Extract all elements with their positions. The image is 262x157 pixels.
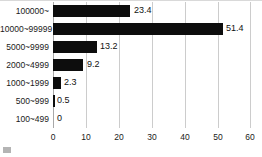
bar <box>53 95 55 107</box>
category-label: 100~499 <box>0 110 49 128</box>
bar <box>53 59 83 71</box>
bar-row: 51.4 <box>53 20 251 38</box>
bar-value-label: 9.2 <box>87 58 100 71</box>
bar-row: 0.5 <box>53 92 251 110</box>
category-label: 5000~9999 <box>0 38 49 56</box>
bar-row: 23.4 <box>53 2 251 20</box>
bar-value-label: 13.2 <box>100 40 118 53</box>
bar-series: 23.4 51.4 13.2 9.2 2.3 0.5 <box>53 2 251 128</box>
category-label: 100000~ <box>0 2 49 20</box>
x-tick-label: 40 <box>170 130 200 144</box>
x-tick-label: 0 <box>38 130 68 144</box>
category-label: 1000~1999 <box>0 74 49 92</box>
bar <box>53 23 223 35</box>
bar <box>53 5 130 17</box>
category-label: 2000~4999 <box>0 56 49 74</box>
bar-value-label: 51.4 <box>226 22 244 35</box>
bar-row: 2.3 <box>53 74 251 92</box>
bar-value-label: 2.3 <box>64 76 77 89</box>
bar-row: 0 <box>53 110 251 128</box>
x-tick-label: 50 <box>203 130 233 144</box>
bar-row: 9.2 <box>53 56 251 74</box>
plot-area: 23.4 51.4 13.2 9.2 2.3 0.5 <box>53 2 251 128</box>
bar <box>53 41 97 53</box>
value-axis-labels: 0 10 20 30 40 50 60 <box>53 130 251 146</box>
page-artifact-glyph <box>3 147 11 153</box>
top-divider <box>0 0 262 1</box>
category-axis-labels: 100000~ 10000~99999 5000~9999 2000~4999 … <box>0 2 49 128</box>
bar-value-label: 23.4 <box>134 4 152 17</box>
bar-value-label: 0 <box>57 112 62 125</box>
bar-row: 13.2 <box>53 38 251 56</box>
x-tick-label: 10 <box>71 130 101 144</box>
bar-value-label: 0.5 <box>57 94 70 107</box>
category-label: 500~999 <box>0 92 49 110</box>
x-tick-label: 20 <box>104 130 134 144</box>
category-label: 10000~99999 <box>0 20 49 38</box>
x-tick-label: 60 <box>235 130 262 144</box>
bar <box>53 77 61 89</box>
bar-chart: 100000~ 10000~99999 5000~9999 2000~4999 … <box>0 0 262 157</box>
x-tick-label: 30 <box>137 130 167 144</box>
